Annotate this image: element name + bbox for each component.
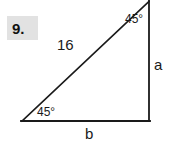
vertical-leg-label: a [154, 57, 162, 72]
problem-number-label: 9. [12, 21, 25, 36]
angle-label-top-right: 45° [125, 13, 143, 25]
angle-label-bottom-left: 45° [37, 106, 55, 118]
hypotenuse-length-label: 16 [57, 37, 74, 52]
horizontal-leg-label: b [85, 126, 93, 141]
figure-canvas: 9. 16 a b 45° 45° [0, 0, 170, 144]
